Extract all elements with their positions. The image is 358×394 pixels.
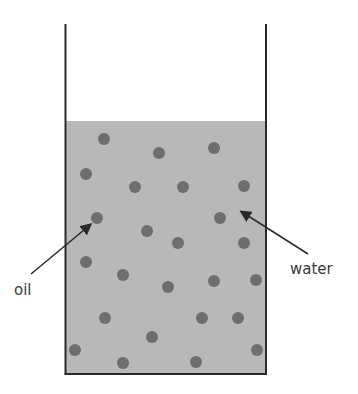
oil-droplet [196,312,208,324]
oil-droplet [238,237,250,249]
oil-droplet [80,168,92,180]
oil-droplet [208,275,220,287]
oil-droplet [146,331,158,343]
oil-droplet [117,269,129,281]
oil-droplet [162,281,174,293]
oil-droplet [98,133,110,145]
oil-droplet [117,357,129,369]
oil-droplet [69,344,81,356]
oil-droplet [250,274,262,286]
oil-droplet [91,212,103,224]
oil-droplet [153,147,165,159]
oil-droplet [232,312,244,324]
oil-droplet [80,256,92,268]
oil-droplet [190,356,202,368]
oil-droplet [172,237,184,249]
oil-droplet [251,344,263,356]
oil-droplet [238,180,250,192]
water-label: water [290,260,334,278]
water-liquid [66,121,265,373]
oil-droplet [129,181,141,193]
oil-label: oil [14,281,32,299]
oil-droplet [99,312,111,324]
oil-droplet [141,225,153,237]
emulsion-diagram: oil water [0,0,358,394]
oil-droplet [208,142,220,154]
oil-droplet [177,181,189,193]
oil-droplet [214,212,226,224]
